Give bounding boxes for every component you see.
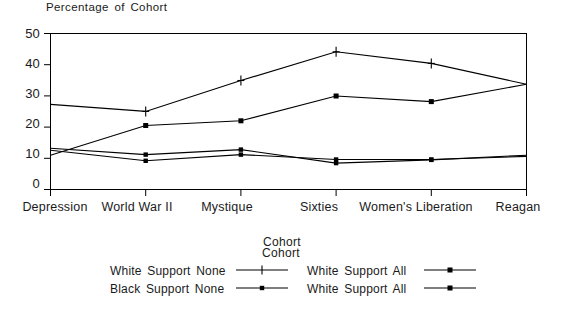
series-white-support-all xyxy=(51,84,527,155)
legend-title: Cohort xyxy=(262,246,300,260)
x-axis-ticks xyxy=(51,190,527,197)
y-axis-ticks xyxy=(44,34,51,190)
legend-sample-black-support-none-marker xyxy=(260,286,264,290)
chart-figure: Percentage of Cohort 50 40 30 20 10 0 De… xyxy=(0,0,564,310)
series-black-support-none xyxy=(51,148,527,163)
series-white-support-all-2 xyxy=(51,150,527,161)
series-white-support-none-markers xyxy=(142,47,435,117)
legend-sample-white-support-all-2-marker xyxy=(448,286,453,291)
plot-canvas xyxy=(0,0,564,310)
legend-sample-white-support-none xyxy=(236,266,288,275)
series-white-support-none xyxy=(51,52,527,112)
legend-sample-white-support-all-1-marker xyxy=(448,268,453,273)
plot-frame xyxy=(51,34,527,190)
